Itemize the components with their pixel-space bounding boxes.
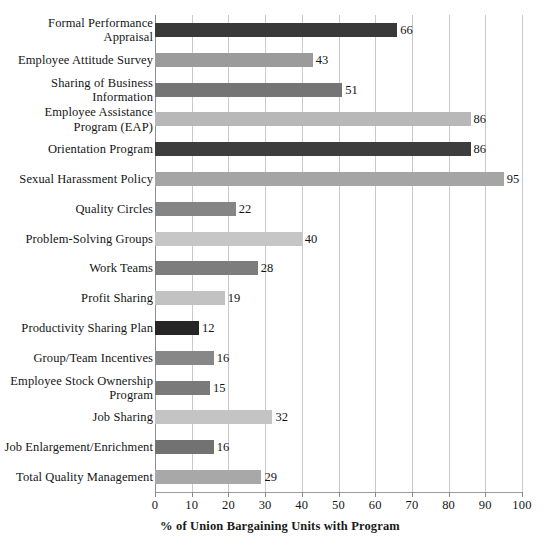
- bar-value-label: 28: [258, 259, 274, 277]
- tick-label-0: 0: [135, 498, 175, 513]
- category-label-line: Appraisal: [104, 30, 154, 44]
- gridline-80: [449, 15, 450, 492]
- category-label: Quality Circles: [0, 202, 153, 217]
- category-label: Formal PerformanceAppraisal: [0, 16, 153, 45]
- bar-value-label: 95: [504, 170, 520, 188]
- tick-label-80: 80: [429, 498, 469, 513]
- gridline-60: [375, 15, 376, 492]
- tick-mark-80: [449, 492, 450, 497]
- bar: [155, 291, 225, 305]
- category-label-line: Information: [92, 90, 153, 104]
- tick-label-100: 100: [502, 498, 542, 513]
- bar-value-label: 16: [214, 349, 230, 367]
- bar: [155, 23, 397, 37]
- bar: [155, 261, 258, 275]
- category-label: Job Enlargement/Enrichment: [0, 440, 153, 455]
- category-label: Work Teams: [0, 261, 153, 276]
- tick-mark-70: [412, 492, 413, 497]
- bar: [155, 112, 471, 126]
- tick-label-50: 50: [319, 498, 359, 513]
- category-label-line: Sharing of Business: [51, 76, 153, 90]
- gridline-70: [412, 15, 413, 492]
- tick-mark-40: [302, 492, 303, 497]
- tick-mark-100: [522, 492, 523, 497]
- bar-value-label: 86: [471, 140, 487, 158]
- tick-mark-60: [375, 492, 376, 497]
- bar-value-label: 51: [342, 81, 358, 99]
- category-label-line: Program (EAP): [74, 120, 153, 134]
- bar-value-label: 12: [199, 319, 215, 337]
- category-label-line: Profit Sharing: [81, 291, 153, 305]
- tick-label-10: 10: [172, 498, 212, 513]
- category-label-line: Program: [109, 388, 153, 402]
- category-label-line: Quality Circles: [75, 202, 153, 216]
- gridline-90: [485, 15, 486, 492]
- tick-label-40: 40: [282, 498, 322, 513]
- category-label: Total Quality Management: [0, 470, 153, 485]
- bar-value-label: 66: [397, 21, 413, 39]
- bar-value-label: 16: [214, 438, 230, 456]
- category-label: Employee Stock OwnershipProgram: [0, 374, 153, 403]
- bar: [155, 410, 272, 424]
- bar: [155, 142, 471, 156]
- bar: [155, 321, 199, 335]
- bar: [155, 172, 504, 186]
- category-label-line: Formal Performance: [48, 16, 153, 30]
- bar: [155, 202, 236, 216]
- tick-mark-30: [265, 492, 266, 497]
- category-label: Profit Sharing: [0, 291, 153, 306]
- category-label: Employee Attitude Survey: [0, 53, 153, 68]
- tick-label-20: 20: [208, 498, 248, 513]
- bar-value-label: 22: [236, 200, 252, 218]
- bar-value-label: 40: [302, 230, 318, 248]
- bar: [155, 440, 214, 454]
- category-label: Job Sharing: [0, 410, 153, 425]
- gridline-100: [522, 15, 523, 492]
- category-label: Sharing of BusinessInformation: [0, 76, 153, 105]
- category-label-line: Employee Stock Ownership: [10, 374, 153, 388]
- bar: [155, 381, 210, 395]
- tick-label-60: 60: [355, 498, 395, 513]
- tick-label-70: 70: [392, 498, 432, 513]
- category-label-line: Group/Team Incentives: [33, 351, 153, 365]
- category-label: Group/Team Incentives: [0, 351, 153, 366]
- category-label: Employee AssistanceProgram (EAP): [0, 105, 153, 134]
- category-label-line: Employee Assistance: [45, 105, 153, 119]
- tick-label-90: 90: [465, 498, 505, 513]
- category-label-line: Job Enlargement/Enrichment: [4, 440, 153, 454]
- bar: [155, 351, 214, 365]
- bar-value-label: 19: [225, 289, 241, 307]
- x-axis-title: % of Union Bargaining Units with Program: [0, 519, 560, 534]
- category-label-line: Sexual Harassment Policy: [19, 172, 153, 186]
- category-label-line: Total Quality Management: [16, 470, 153, 484]
- category-label: Orientation Program: [0, 142, 153, 157]
- category-label: Problem-Solving Groups: [0, 232, 153, 247]
- category-label-line: Problem-Solving Groups: [25, 232, 153, 246]
- plot-area: 66435186869522402819121615321629: [155, 15, 522, 492]
- category-label-line: Productivity Sharing Plan: [21, 321, 153, 335]
- category-label: Productivity Sharing Plan: [0, 321, 153, 336]
- bar-value-label: 15: [210, 379, 226, 397]
- category-label: Sexual Harassment Policy: [0, 172, 153, 187]
- bar: [155, 83, 342, 97]
- category-label-line: Work Teams: [89, 261, 153, 275]
- tick-mark-0: [155, 492, 156, 497]
- category-label-line: Job Sharing: [93, 410, 153, 424]
- bar: [155, 232, 302, 246]
- tick-mark-90: [485, 492, 486, 497]
- bar: [155, 470, 261, 484]
- bar-value-label: 32: [272, 408, 288, 426]
- bar-value-label: 29: [261, 468, 277, 486]
- tick-label-30: 30: [245, 498, 285, 513]
- tick-mark-20: [228, 492, 229, 497]
- category-label-line: Employee Attitude Survey: [18, 53, 153, 67]
- bar-chart: 66435186869522402819121615321629 Formal …: [0, 0, 560, 555]
- bar-value-label: 86: [471, 110, 487, 128]
- tick-mark-50: [339, 492, 340, 497]
- category-label-line: Orientation Program: [48, 142, 153, 156]
- bar-value-label: 43: [313, 51, 329, 69]
- tick-mark-10: [192, 492, 193, 497]
- bar: [155, 53, 313, 67]
